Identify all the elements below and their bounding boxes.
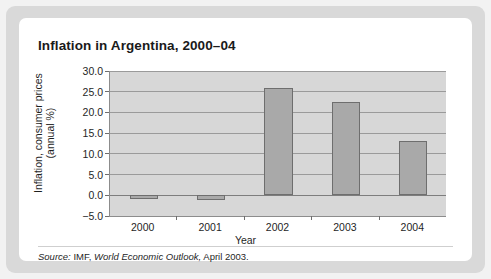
- plot-area: [109, 71, 446, 216]
- y-axis-tick-labels: 30.025.020.015.010.05.00.0−5.0: [57, 18, 103, 261]
- x-axis-tick-label: 2003: [310, 221, 380, 233]
- source-agency: IMF,: [73, 251, 91, 262]
- figure-card: Inflation in Argentina, 2000–04 30.025.0…: [19, 18, 472, 261]
- y-axis-tick-mark: [105, 91, 109, 92]
- y-axis-tick-label: 30.0: [61, 66, 103, 77]
- y-axis-tick-label: 5.0: [61, 170, 103, 181]
- bar-2004: [399, 141, 427, 196]
- x-axis-line: [109, 216, 446, 217]
- y-axis-tick-mark: [105, 133, 109, 134]
- y-axis-tick-label: 20.0: [61, 107, 103, 118]
- y-axis-tick-mark: [105, 174, 109, 175]
- y-axis-tick-label: 25.0: [61, 87, 103, 98]
- chart-plot-wrapper: 30.025.020.015.010.05.00.0−5.0 Inflation…: [19, 18, 472, 261]
- x-axis-tick-label: 2000: [108, 221, 178, 233]
- bar-2001: [197, 195, 225, 200]
- y-axis-tick-mark: [105, 153, 109, 154]
- y-axis-tick-label: 10.0: [61, 149, 103, 160]
- x-axis-tick-mark: [311, 216, 312, 220]
- x-axis-tick-label: 2001: [175, 221, 245, 233]
- bar-2002: [264, 88, 292, 196]
- bar-2000: [130, 195, 158, 199]
- source-label: Source:: [38, 251, 71, 262]
- x-axis-title: Year: [19, 234, 472, 246]
- x-axis-tick-label: 2004: [377, 221, 447, 233]
- y-axis-tick-mark: [105, 195, 109, 196]
- y-axis-tick-mark: [105, 216, 109, 217]
- figure-outer-frame: Inflation in Argentina, 2000–04 30.025.0…: [6, 6, 485, 273]
- y-axis-title-line2: (annual %): [44, 53, 56, 213]
- y-axis-tick-mark: [105, 71, 109, 72]
- source-date: April 2003.: [203, 251, 248, 262]
- y-axis-tick-label: 15.0: [61, 128, 103, 139]
- gridline: [110, 71, 446, 72]
- y-axis-title: Inflation, consumer prices (annual %): [32, 53, 56, 213]
- source-divider: [38, 246, 453, 247]
- source-note: Source: IMF, World Economic Outlook, Apr…: [38, 251, 249, 262]
- y-axis-tick-mark: [105, 112, 109, 113]
- y-axis-tick-label: 0.0: [61, 190, 103, 201]
- x-axis-tick-mark: [379, 216, 380, 220]
- x-axis-tick-label: 2002: [243, 221, 313, 233]
- y-axis-tick-label: −5.0: [61, 211, 103, 222]
- bar-2003: [332, 102, 360, 195]
- x-axis-tick-mark: [244, 216, 245, 220]
- source-publication: World Economic Outlook,: [94, 251, 201, 262]
- x-axis-tick-mark: [176, 216, 177, 220]
- y-axis-title-line1: Inflation, consumer prices: [32, 53, 44, 213]
